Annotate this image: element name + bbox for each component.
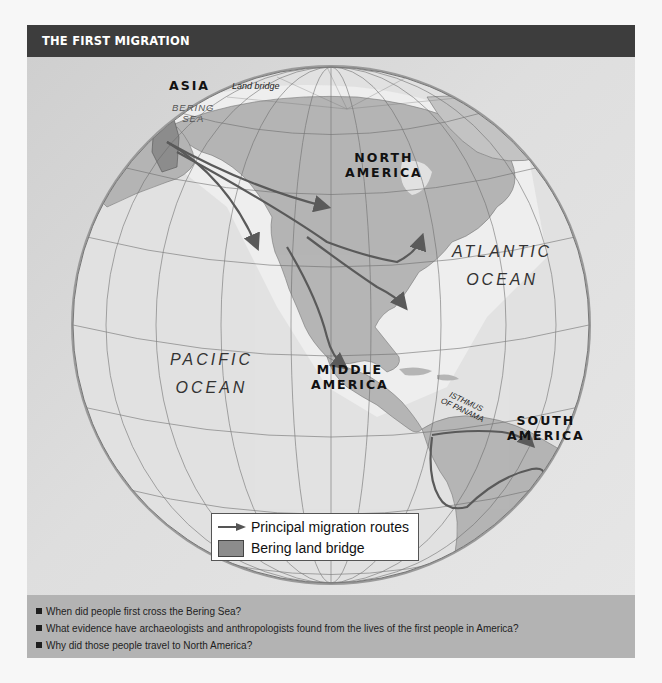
migration-figure: THE FIRST MIGRATION	[27, 25, 635, 658]
square-bullet-icon	[36, 608, 42, 614]
label-north-america: NORTH AMERICA	[345, 150, 423, 180]
label-land-bridge: Land bridge	[232, 81, 280, 91]
globe-map: ASIA Land bridge BERING SEA NORTH AMERIC…	[27, 57, 635, 595]
figure-title: THE FIRST MIGRATION	[27, 25, 635, 57]
legend-item-routes: Principal migration routes	[218, 517, 409, 537]
land-bridge-swatch	[218, 540, 244, 557]
label-middle-america: MIDDLE AMERICA	[311, 362, 389, 392]
square-bullet-icon	[36, 625, 42, 631]
label-bering-sea: BERING SEA	[172, 102, 214, 124]
label-atlantic-ocean: ATLANTIC OCEAN	[452, 238, 552, 294]
map-legend: Principal migration routes Bering land b…	[211, 513, 419, 561]
label-south-america: SOUTH AMERICA	[507, 413, 585, 443]
square-bullet-icon	[36, 642, 42, 648]
question-item: Why did those people travel to North Ame…	[36, 637, 635, 654]
label-asia: ASIA	[169, 78, 210, 93]
arrow-icon	[218, 522, 246, 532]
discussion-questions: When did people first cross the Bering S…	[27, 595, 635, 658]
label-pacific-ocean: PACIFIC OCEAN	[170, 346, 253, 402]
question-item: What evidence have archaeologists and an…	[36, 620, 635, 637]
legend-item-land-bridge: Bering land bridge	[218, 538, 365, 558]
question-item: When did people first cross the Bering S…	[36, 603, 635, 620]
